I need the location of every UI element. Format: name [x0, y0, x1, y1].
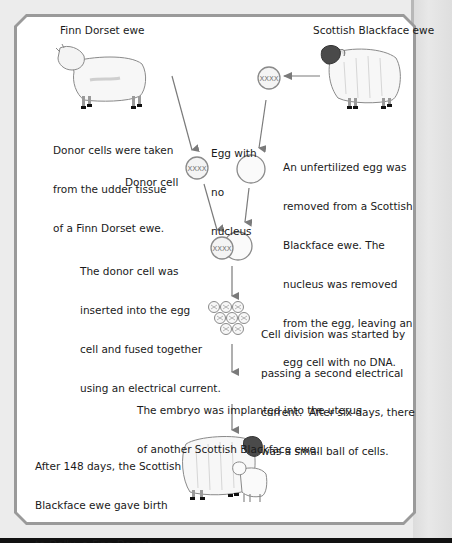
text-line: removed from a Scottish	[283, 200, 413, 213]
text-line: After 148 days, the Scottish	[35, 460, 181, 473]
text-line: Blackface ewe gave birth	[35, 499, 181, 512]
text-line: Blackface ewe. The	[283, 239, 413, 252]
text-line: inserted into the egg	[80, 304, 221, 317]
nucleus-cell-icon: XXXX	[258, 67, 280, 89]
text-line: of a Finn Dorset ewe.	[53, 222, 173, 235]
text-line: An unfertilized egg was	[283, 161, 413, 174]
text-line: no	[211, 186, 257, 199]
birth-text: After 148 days, the Scottish Blackface e…	[35, 434, 181, 543]
egg-label: Egg with no nucleus	[211, 121, 257, 251]
donor-cell-icon: XXXX	[186, 157, 208, 179]
arrow-icon	[172, 76, 192, 150]
finn-dorset-sheep-icon	[56, 44, 146, 109]
finn-dorset-label: Finn Dorset ewe	[60, 24, 145, 37]
svg-text:XXXX: XXXX	[259, 75, 278, 83]
text-line: nucleus was removed	[283, 278, 413, 291]
text-line: cell and fused together	[80, 343, 221, 356]
scottish-blackface-label: Scottish Blackface ewe	[313, 24, 434, 37]
text-line: Donor cells were taken	[53, 144, 173, 157]
scottish-blackface-sheep-icon	[321, 46, 400, 110]
text-line: Egg with	[211, 147, 257, 160]
text-line: nucleus	[211, 225, 257, 238]
donor-cell-label: Donor cell	[125, 176, 178, 189]
text-line: Cell division was started by	[261, 328, 415, 341]
arrow-icon	[259, 100, 266, 148]
text-line: The embryo was implanted into the uterus	[137, 404, 361, 417]
text-line: to Dolly, a Finn Dorset	[35, 538, 181, 543]
text-line: The donor cell was	[80, 265, 221, 278]
svg-text:XXXX: XXXX	[187, 165, 206, 173]
